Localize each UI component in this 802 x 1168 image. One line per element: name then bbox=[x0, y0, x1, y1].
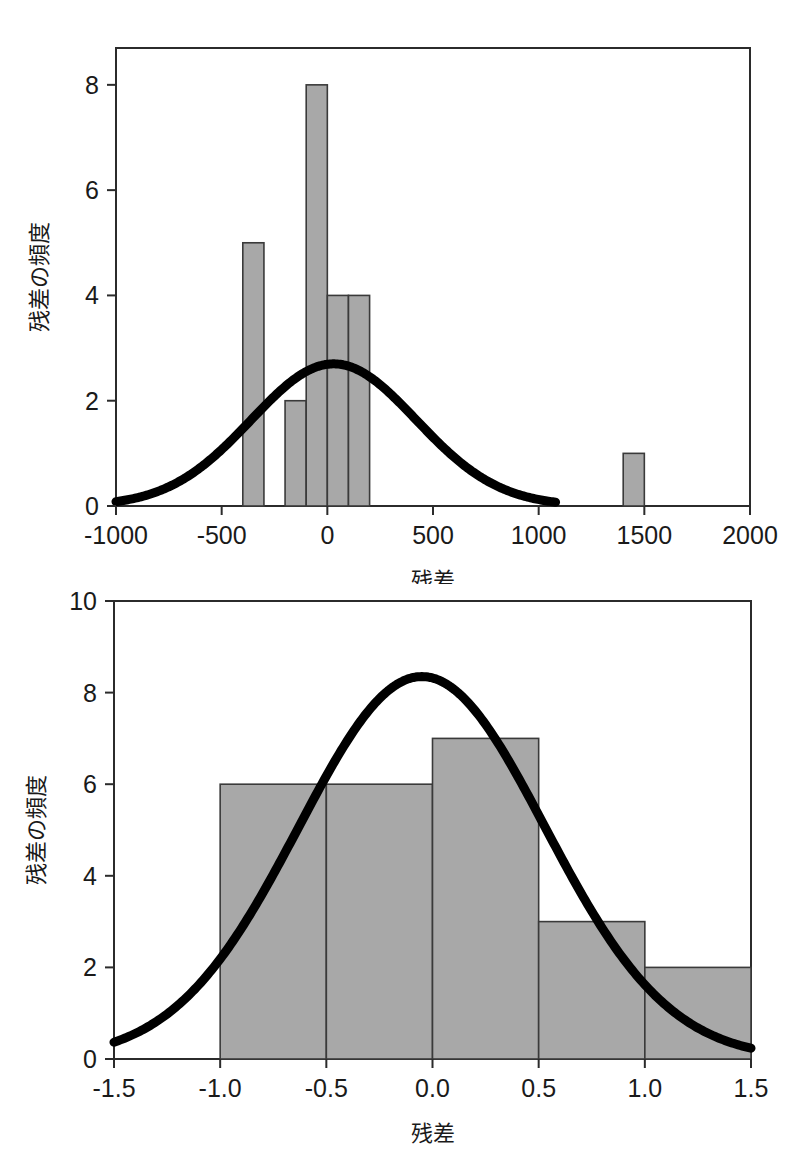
y-axis: 0246810 bbox=[69, 587, 114, 1073]
histogram-bar bbox=[348, 295, 369, 506]
histogram-bar bbox=[623, 453, 644, 506]
x-axis-tick-label: -1.0 bbox=[199, 1074, 242, 1102]
y-axis-tick-label: 0 bbox=[85, 492, 99, 520]
y-axis-tick-label: 2 bbox=[85, 387, 99, 415]
bottom-histogram-figure: -1.5-1.0-0.50.00.51.01.5残差0246810残差の頻度 bbox=[0, 584, 802, 1168]
y-axis: 02468 bbox=[85, 71, 116, 520]
y-axis-tick-label: 10 bbox=[69, 587, 97, 615]
x-axis-title: 残差 bbox=[411, 568, 455, 584]
y-axis-tick-label: 4 bbox=[85, 281, 99, 309]
histogram-bar bbox=[306, 85, 327, 506]
histogram-bar bbox=[539, 922, 645, 1059]
histogram-bar bbox=[327, 295, 348, 506]
x-axis-tick-label: 0 bbox=[320, 521, 334, 549]
x-axis-tick-label: -0.5 bbox=[305, 1074, 348, 1102]
y-axis-tick-label: 4 bbox=[83, 862, 97, 890]
bottom-histogram-chart: -1.5-1.0-0.50.00.51.01.5残差0246810残差の頻度 bbox=[0, 584, 802, 1168]
x-axis-tick-label: -1.5 bbox=[92, 1074, 135, 1102]
y-axis-title: 残差の頻度 bbox=[24, 775, 49, 885]
y-axis-tick-label: 2 bbox=[83, 953, 97, 981]
x-axis-tick-label: -1000 bbox=[84, 521, 148, 549]
x-axis: -1000-5000500100015002000 bbox=[84, 506, 778, 549]
y-axis-tick-label: 8 bbox=[83, 679, 97, 707]
top-histogram-figure: -1000-5000500100015002000残差02468残差の頻度 bbox=[0, 0, 802, 584]
x-axis-tick-label: 0.0 bbox=[415, 1074, 450, 1102]
y-axis-title: 残差の頻度 bbox=[27, 222, 52, 332]
histogram-bar bbox=[326, 784, 432, 1059]
x-axis: -1.5-1.0-0.50.00.51.01.5 bbox=[92, 1059, 768, 1102]
histogram-bar bbox=[243, 243, 264, 506]
top-histogram-chart: -1000-5000500100015002000残差02468残差の頻度 bbox=[0, 0, 802, 584]
y-axis-tick-label: 6 bbox=[83, 770, 97, 798]
y-axis-tick-label: 8 bbox=[85, 71, 99, 99]
x-axis-tick-label: 1.0 bbox=[627, 1074, 662, 1102]
x-axis-tick-label: 500 bbox=[412, 521, 454, 549]
histogram-bar bbox=[285, 401, 306, 506]
y-axis-tick-label: 6 bbox=[85, 176, 99, 204]
x-axis-tick-label: 2000 bbox=[722, 521, 778, 549]
x-axis-tick-label: 1500 bbox=[617, 521, 673, 549]
x-axis-tick-label: -500 bbox=[197, 521, 247, 549]
x-axis-tick-label: 1000 bbox=[511, 521, 567, 549]
histogram-bar bbox=[220, 784, 326, 1059]
x-axis-tick-label: 1.5 bbox=[734, 1074, 769, 1102]
y-axis-tick-label: 0 bbox=[83, 1045, 97, 1073]
x-axis-title: 残差 bbox=[411, 1121, 455, 1146]
x-axis-tick-label: 0.5 bbox=[521, 1074, 556, 1102]
